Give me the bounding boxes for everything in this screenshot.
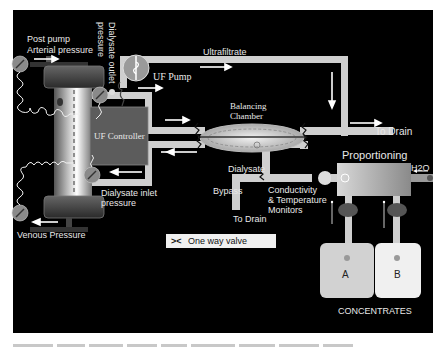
conductivity-monitor-icon [318,171,332,185]
figure-caption-placeholder [13,336,433,345]
dialysate-inlet-pressure-label: pressure [101,198,136,208]
dialysate-outlet-label: Dialysate outlet [107,22,117,84]
to-drain-bottom-label: To Drain [233,214,267,224]
dialysate-inlet-label: Dialysate inlet [101,188,157,198]
venous-pressure-label: Venous Pressure [17,230,86,240]
balancing-chamber-label: Balancing [230,101,267,111]
arterial-pressure-label: Arterial pressure [27,45,93,55]
one-way-valve-symbol-icon: >< [171,236,182,246]
h2o-label: H2O [411,163,430,173]
dialysate-label: Dialysate [228,164,265,174]
concentrate-b-label: B [394,270,401,280]
dialysate-outlet-pressure-label: pressure [96,22,106,57]
ultrafiltrate-label: Ultrafiltrate [203,47,247,57]
uf-pump-label: UF Pump [153,72,192,82]
uf-controller-label: UF Controller [94,131,145,141]
concentrate-a-label: A [342,270,349,280]
uf-pump-icon [123,55,149,81]
temperature-label: & Temperature [268,195,327,205]
proportioning-label: Proportioning [342,150,407,160]
monitors-label: Monitors [268,205,303,215]
conductivity-label: Conductivity [268,185,317,195]
concentrates-label: CONCENTRATES [338,306,412,316]
legend-text: One way valve [188,236,247,246]
balancing-chamber-icon [198,124,306,152]
ultrafiltrate-tubing [120,56,348,136]
to-drain-top-label: To Drain [375,127,412,137]
bypass-label: Bypass [213,186,243,196]
legend-one-way-valve: >< One way valve [166,234,276,248]
post-pump-label: Post pump [27,34,70,44]
balancing-chamber-label-2: Chamber [230,111,263,121]
